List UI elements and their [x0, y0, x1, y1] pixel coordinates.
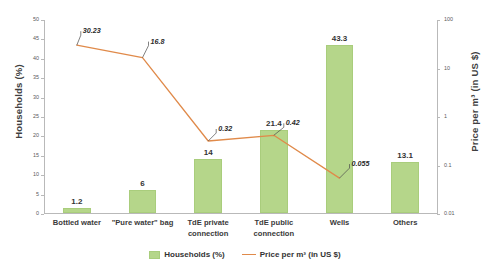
right-tick-label: 0.1: [444, 163, 452, 168]
category-label-line: TdE private: [175, 217, 241, 228]
right-tick-mark: [437, 214, 440, 215]
left-tick-label: 15: [33, 153, 39, 158]
category-axis-labels: Bottled water"Pure water" bagTdE private…: [44, 217, 438, 247]
line-value-label: 0.32: [218, 125, 232, 132]
category-label-line: connection: [175, 228, 241, 239]
label-leader-line: [274, 123, 284, 135]
category-label-line: connection: [241, 228, 307, 239]
line-value-label: 0.055: [352, 160, 370, 167]
left-tick-label: 45: [33, 36, 39, 41]
left-tick-label: 5: [36, 192, 39, 197]
left-tick-label: 35: [33, 75, 39, 80]
right-tick-label: 1: [444, 114, 447, 119]
category-label: Wells: [307, 217, 373, 228]
line-swatch-icon: [242, 254, 256, 255]
category-label-line: "Pure water" bag: [110, 217, 176, 228]
line-value-label: 16.8: [151, 38, 165, 45]
label-leader-line: [340, 164, 350, 178]
category-label: Others: [372, 217, 438, 228]
line-value-label: 30.23: [83, 27, 101, 34]
legend-label-households: Households (%): [164, 250, 224, 259]
legend-item-households: Households (%): [149, 250, 224, 259]
category-label-line: Wells: [307, 217, 373, 228]
category-label: "Pure water" bag: [110, 217, 176, 228]
line-series: [44, 20, 438, 214]
category-label-line: TdE public: [241, 217, 307, 228]
left-axis-title: Households (%): [13, 37, 24, 167]
category-label: TdE publicconnection: [241, 217, 307, 239]
label-leader-line: [143, 42, 149, 58]
left-tick-label: 10: [33, 172, 39, 177]
line-value-label: 0.42: [286, 119, 300, 126]
right-tick-label: 10: [444, 66, 450, 71]
left-tick-label: 30: [33, 95, 39, 100]
category-label: TdE privateconnection: [175, 217, 241, 239]
left-tick-label: 0: [36, 211, 39, 216]
legend-label-price: Price per m³ (in US $): [260, 250, 341, 259]
chart-legend: Households (%) Price per m³ (in US $): [0, 250, 490, 259]
category-label-line: Bottled water: [44, 217, 110, 228]
right-tick-label: 100: [444, 17, 453, 22]
category-label: Bottled water: [44, 217, 110, 228]
left-tick-mark: [41, 214, 44, 215]
right-tick-label: 0.01: [444, 211, 455, 216]
price-line: [77, 45, 340, 178]
category-label-line: Others: [372, 217, 438, 228]
bar-swatch-icon: [149, 251, 160, 259]
label-leader-line: [77, 31, 81, 45]
legend-item-price: Price per m³ (in US $): [242, 250, 341, 259]
label-leader-line: [208, 129, 216, 141]
left-tick-label: 20: [33, 133, 39, 138]
right-axis-title: Price per m³ (in US $): [469, 37, 480, 167]
left-tick-label: 40: [33, 56, 39, 61]
combo-chart: Households (%) Price per m³ (in US $) 05…: [0, 0, 490, 271]
left-tick-label: 50: [33, 17, 39, 22]
plot-area: 05101520253035404550 0.010.1110100 1.261…: [44, 20, 438, 214]
left-tick-label: 25: [33, 114, 39, 119]
